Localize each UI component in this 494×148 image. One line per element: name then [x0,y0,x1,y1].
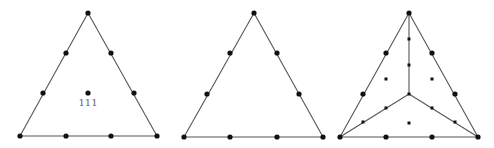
edge-line [340,13,409,137]
node-dot [131,90,136,95]
node-square [408,64,411,67]
node-square [454,121,457,124]
node-square [408,93,411,96]
node-square [431,107,434,110]
node-dot [337,134,342,139]
edge-line [409,94,478,137]
node-square [408,38,411,41]
triangle-plain [181,10,325,139]
node-dot [40,90,45,95]
node-dot [360,91,365,96]
node-dot [251,10,256,15]
edge-line [184,13,254,137]
node-dot [452,91,457,96]
node-label-111: 111 [78,97,97,108]
node-dot [429,50,434,55]
node-dot [274,50,279,55]
node-dot [274,134,279,139]
node-dot [383,134,388,139]
diagram-canvas: 111 [0,0,494,148]
edge-line [254,13,323,137]
node-dot [108,133,113,138]
node-dot [383,50,388,55]
triangle-subdivided [337,10,480,139]
edge-line [88,13,157,136]
node-dot [320,134,325,139]
triangle-with-center [17,10,159,138]
node-dot [63,50,68,55]
edge-line [20,13,88,136]
node-dot [429,134,434,139]
node-dot [227,134,232,139]
node-dot [204,91,209,96]
node-dot [227,50,232,55]
node-dot [85,90,90,95]
node-square [385,107,388,110]
edge-line [409,13,478,137]
node-dot [154,133,159,138]
node-dot [17,133,22,138]
node-dot [181,134,186,139]
node-dot [475,134,480,139]
node-square [408,122,411,125]
node-dot [406,10,411,15]
node-dot [85,10,90,15]
node-square [362,121,365,124]
node-dot [296,91,301,96]
node-dot [108,50,113,55]
node-dot [63,133,68,138]
node-square [385,78,388,81]
edge-line [340,94,409,137]
node-square [431,78,434,81]
